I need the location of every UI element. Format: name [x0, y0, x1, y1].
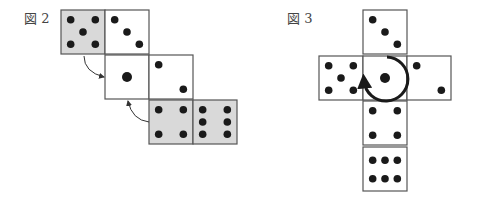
pip — [369, 132, 377, 140]
pip — [381, 175, 389, 183]
dice-nets-diagram — [0, 0, 477, 201]
fold-arrow-icon — [128, 101, 149, 122]
pip — [199, 131, 207, 139]
die-face-4 — [363, 101, 407, 145]
pip — [67, 16, 75, 24]
pip — [224, 106, 232, 114]
pip — [413, 62, 421, 70]
pip — [67, 41, 75, 49]
pip — [325, 87, 333, 95]
die-face-5 — [319, 56, 363, 100]
pip — [394, 107, 402, 115]
pip — [79, 28, 87, 36]
pip — [155, 61, 163, 69]
die-face-3 — [363, 10, 407, 54]
pip — [224, 118, 232, 126]
pip — [92, 41, 100, 49]
pip — [394, 41, 402, 49]
die-face-6 — [363, 147, 407, 191]
pip — [369, 156, 377, 164]
pip — [369, 107, 377, 115]
pip — [224, 131, 232, 139]
pip — [381, 28, 389, 36]
pip — [394, 132, 402, 140]
pip — [394, 175, 402, 183]
pip — [123, 28, 131, 36]
die-face-6 — [193, 100, 237, 144]
pip — [350, 62, 358, 70]
pip — [337, 74, 345, 82]
pip — [92, 16, 100, 24]
pip — [369, 16, 377, 24]
pip — [136, 41, 144, 49]
fold-arrow-icon — [84, 56, 104, 77]
figure-2-net — [61, 10, 237, 144]
figure-3-net — [319, 10, 451, 191]
pip — [199, 106, 207, 114]
pip — [122, 72, 132, 82]
pip — [155, 131, 163, 139]
die-face-1 — [105, 55, 149, 99]
die-face-3 — [105, 10, 149, 54]
pip — [394, 156, 402, 164]
pip — [111, 16, 119, 24]
pip — [180, 106, 188, 114]
pip — [180, 131, 188, 139]
pip — [325, 62, 333, 70]
pip — [381, 156, 389, 164]
pip — [350, 87, 358, 95]
pip — [380, 73, 390, 83]
pip — [369, 175, 377, 183]
pip — [199, 118, 207, 126]
pip — [155, 106, 163, 114]
pip — [180, 86, 188, 94]
pip — [438, 87, 446, 95]
die-face-2 — [407, 56, 451, 100]
die-face-5 — [61, 10, 105, 54]
die-face-2 — [149, 55, 193, 99]
die-face-4 — [149, 100, 193, 144]
